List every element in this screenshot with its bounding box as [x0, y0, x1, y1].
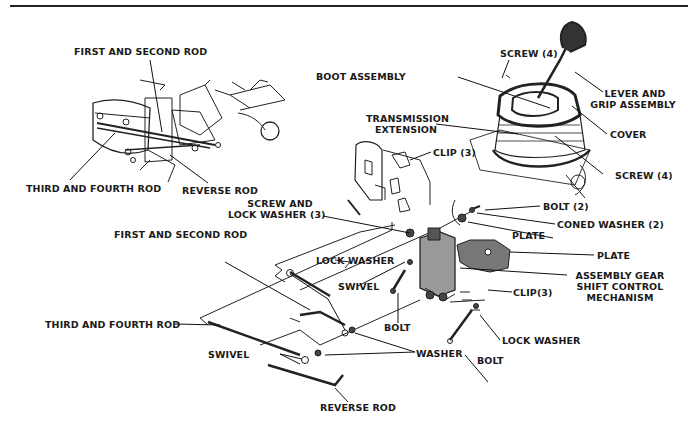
label-screw-top: SCREW (4) [500, 48, 558, 59]
label-boot-assembly: BOOT ASSEMBLY [316, 71, 406, 82]
label-transmission-extension-2: EXTENSION [375, 124, 437, 135]
label-transmission-extension-1: TRANSMISSION [366, 113, 449, 124]
label-first-second-rod: FIRST AND SECOND ROD [114, 229, 247, 240]
label-screw-lock-2: LOCK WASHER (3) [228, 209, 326, 220]
label-lever-grip-1: LEVER AND [600, 88, 670, 99]
label-bolt-low: BOLT [477, 355, 504, 366]
label-lock-washer-low: LOCK WASHER [502, 335, 581, 346]
inset-transmission [93, 80, 285, 182]
label-assembly-1: ASSEMBLY GEAR [570, 270, 670, 281]
label-washer: WASHER [416, 348, 463, 359]
label-inset-reverse-rod: REVERSE ROD [182, 185, 258, 196]
label-screw-right: SCREW (4) [615, 170, 673, 181]
label-lock-washer-mid: LOCK WASHER [316, 255, 395, 266]
label-lever-grip-2: GRIP ASSEMBLY [590, 99, 676, 110]
label-screw-lock-1: SCREW AND [230, 198, 330, 209]
label-plate-2: PLATE [597, 250, 630, 261]
label-third-fourth-rod: THIRD AND FOURTH ROD [45, 319, 180, 330]
label-inset-third-fourth-rod: THIRD AND FOURTH ROD [26, 183, 161, 194]
label-reverse-rod: REVERSE ROD [320, 402, 396, 413]
label-assembly-3: MECHANISM [570, 292, 670, 303]
label-bolt-mid: BOLT [384, 322, 411, 333]
parts-illustration [0, 0, 688, 432]
label-swivel-low: SWIVEL [208, 349, 249, 360]
label-clip-bottom: CLIP(3) [513, 287, 553, 298]
label-inset-first-second-rod: FIRST AND SECOND ROD [74, 46, 207, 57]
label-coned-washer: CONED WASHER (2) [557, 219, 664, 230]
label-cover: COVER [610, 129, 646, 140]
label-bolt-2: BOLT (2) [543, 201, 589, 212]
label-assembly-2: SHIFT CONTROL [570, 281, 670, 292]
label-clip-top: CLIP (3) [433, 147, 476, 158]
label-plate-1: PLATE [512, 230, 545, 241]
label-swivel-mid: SWIVEL [338, 281, 379, 292]
